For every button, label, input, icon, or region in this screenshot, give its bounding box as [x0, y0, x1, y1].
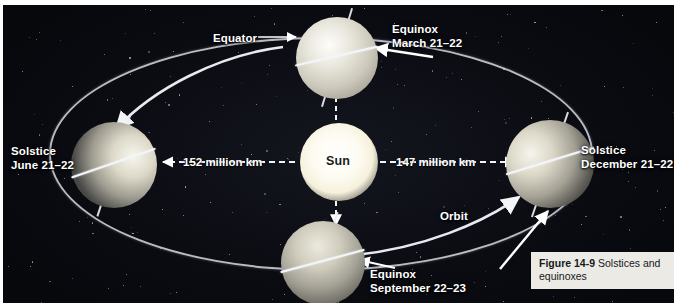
orbit-direction-arrow-lower-right	[355, 197, 519, 255]
march-equinox-label: Equinox March 21–22	[392, 23, 462, 50]
distance-label-aphelion: 152 million km	[183, 156, 262, 168]
june-solstice-date: June 21–22	[11, 159, 74, 173]
earth-globe-march	[296, 17, 378, 99]
december-solstice-date: December 21–22	[581, 158, 673, 172]
earth-march-equinox	[296, 17, 378, 99]
sun-label: Sun	[326, 154, 350, 168]
june-solstice-label: Solstice June 21–22	[11, 145, 74, 172]
december-solstice-event: Solstice	[581, 144, 673, 158]
earth-june-solstice	[71, 122, 157, 208]
distance-label-perihelion: 147 million km	[396, 156, 475, 168]
earth-globe-september	[281, 221, 365, 303]
figure-number: Figure 14-9	[539, 257, 595, 269]
space-diagram-panel: Sun Equator Equinox March 21–22 Solstice…	[3, 5, 674, 303]
september-equinox-date: September 22–23	[370, 282, 466, 296]
september-equinox-event: Equinox	[370, 268, 466, 282]
march-equinox-date: March 21–22	[392, 37, 462, 51]
earth-september-equinox	[281, 221, 365, 303]
figure-caption: Figure 14-9 Solstices and equinoxes	[531, 252, 674, 289]
figure-solstices-equinoxes: Sun Equator Equinox March 21–22 Solstice…	[0, 0, 677, 306]
march-equinox-event: Equinox	[392, 23, 462, 37]
orbit-direction-arrow-upper-left	[116, 47, 283, 129]
june-solstice-event: Solstice	[11, 145, 74, 159]
september-equinox-label: Equinox September 22–23	[370, 268, 466, 295]
equator-label: Equator	[213, 32, 257, 46]
sun: Sun	[300, 123, 378, 201]
orbit-label: Orbit	[440, 210, 468, 224]
december-solstice-label: Solstice December 21–22	[581, 144, 673, 171]
earth-globe-june	[71, 122, 157, 208]
